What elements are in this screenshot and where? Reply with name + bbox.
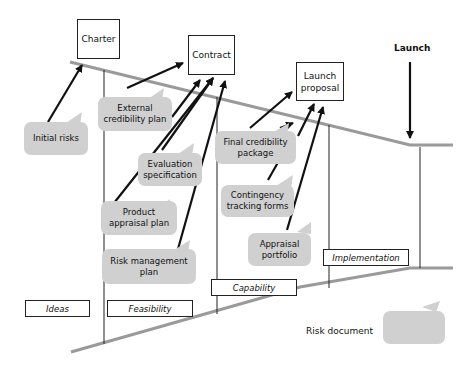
bubble-final-credibility-package: Final credibility package [215,131,296,164]
milestone-label: Charter [82,33,116,45]
milestone-label: Launch proposal [301,70,340,94]
bubble-label: Initial risks [33,133,79,144]
launch-label: Launch [394,43,430,53]
legend-risk-document-label: Risk document [306,326,373,336]
stage-label: Feasibility [129,304,172,314]
milestone-contract: Contract [188,35,235,75]
bubble-initial-risks: Initial risks [24,122,88,155]
legend-risk-document-bubble [383,311,445,344]
bubble-product-appraisal-plan: Product appraisal plan [101,201,177,235]
bubble-label: Evaluation specification [140,159,200,181]
stage-feasibility: Feasibility [107,300,193,317]
milestone-label: Contract [192,49,231,61]
bubble-external-credibility-plan: External credibility plan [98,97,172,131]
stage-label: Implementation [332,253,400,263]
stage-label: Capability [233,283,276,293]
stage-capability: Capability [211,279,297,296]
bubble-evaluation-specification: Evaluation specification [138,153,202,186]
milestone-charter: Charter [77,19,120,59]
bubble-label: Contingency tracking forms [223,190,293,212]
bubble-label: Appraisal portfolio [252,239,307,261]
bubble-appraisal-portfolio: Appraisal portfolio [248,233,311,266]
bubble-label: Final credibility package [217,137,295,159]
bubble-contingency-tracking-forms: Contingency tracking forms [221,185,294,217]
stage-ideas: Ideas [25,300,90,317]
stage-label: Ideas [46,304,69,314]
bubble-label: Risk management plan [107,256,191,278]
stage-implementation: Implementation [323,249,409,266]
bubble-label: Product appraisal plan [106,207,172,229]
bubble-risk-management-plan: Risk management plan [102,249,196,284]
milestone-launch-proposal: Launch proposal [296,62,344,101]
bubble-label: External credibility plan [100,103,170,125]
